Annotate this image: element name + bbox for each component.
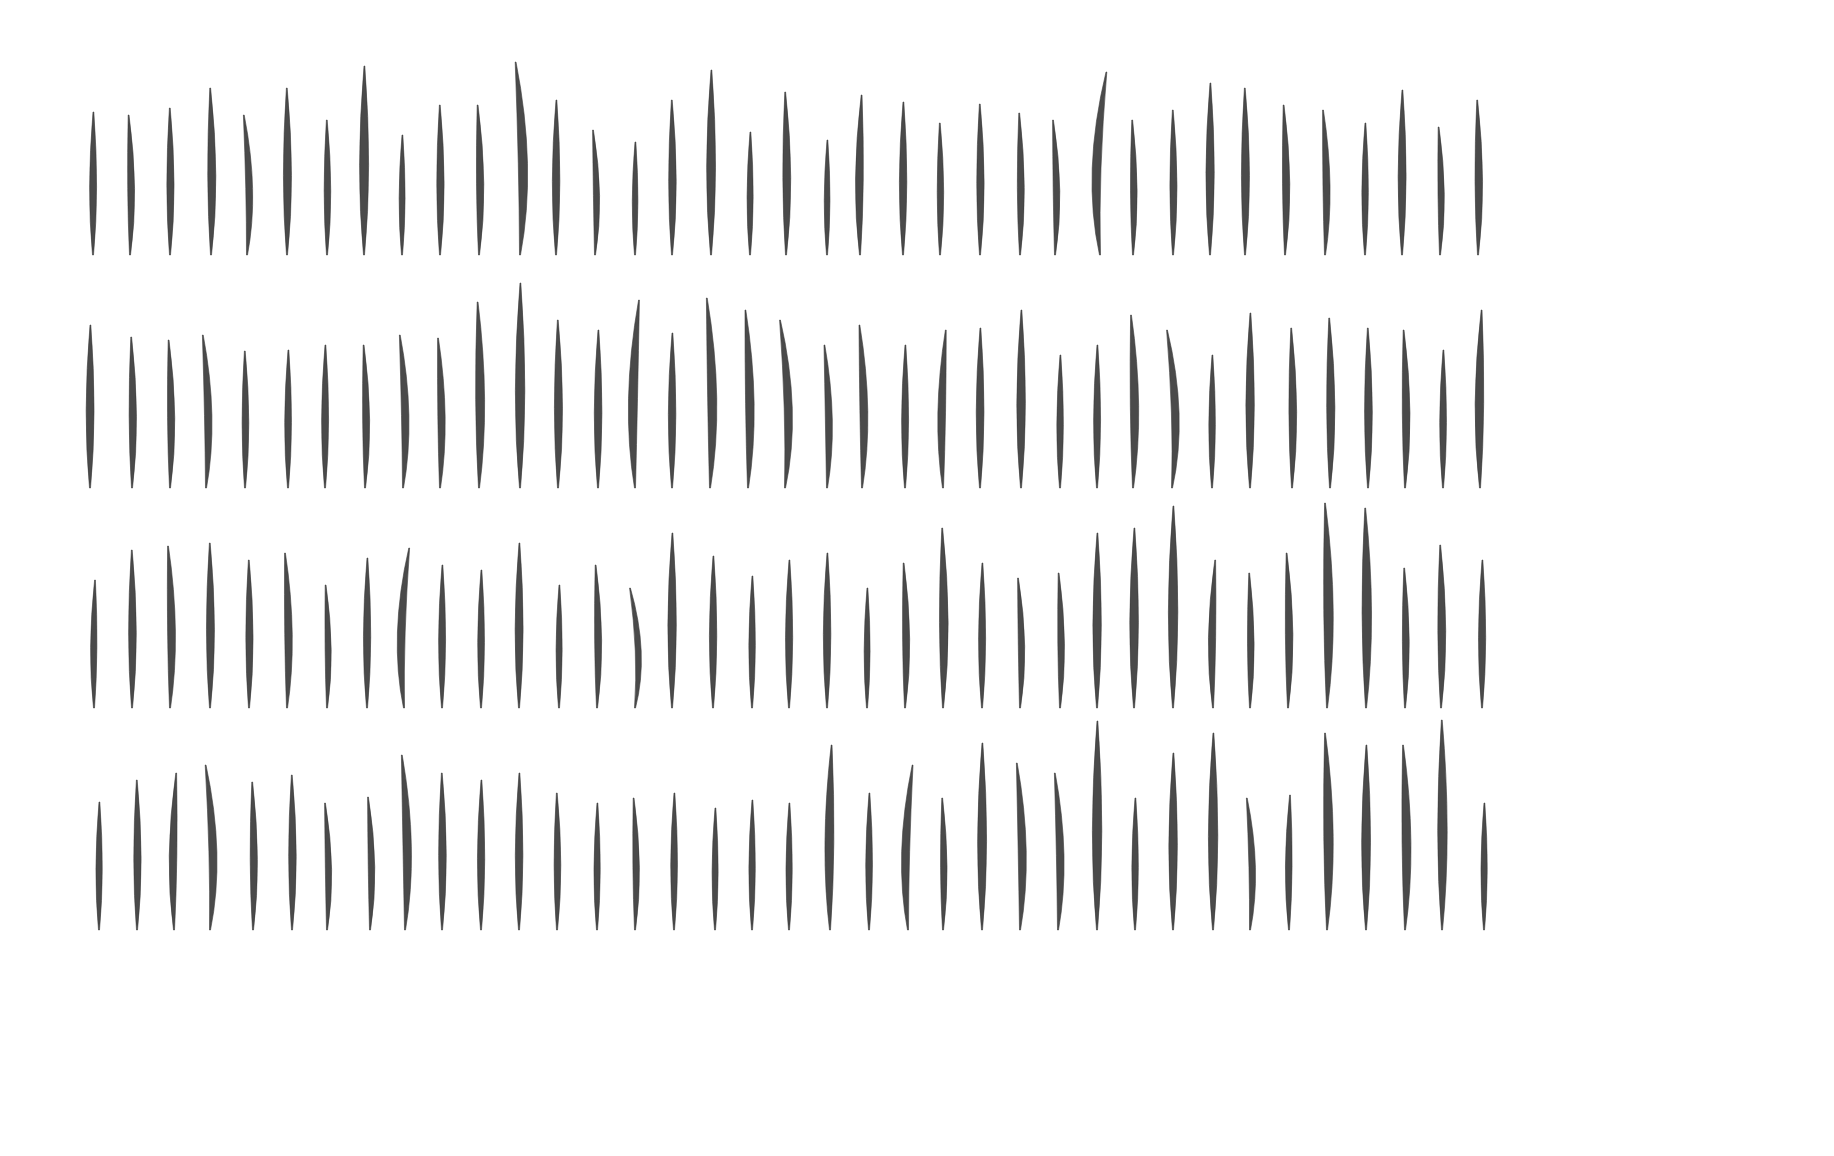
leaf <box>242 351 249 488</box>
leaf <box>167 340 174 488</box>
leaf <box>939 528 948 708</box>
leaf <box>399 335 409 488</box>
leaf <box>823 553 831 708</box>
leaf <box>360 66 369 255</box>
leaf <box>515 773 523 930</box>
leaf <box>671 793 678 930</box>
leaf <box>706 298 716 488</box>
leaf <box>1438 720 1447 930</box>
leaf <box>1475 310 1484 488</box>
leaf <box>712 808 718 930</box>
leaf <box>1017 310 1026 488</box>
leaf <box>1324 503 1334 708</box>
leaf <box>167 546 175 708</box>
leaf <box>1130 315 1139 488</box>
leaf <box>206 543 214 708</box>
leaf <box>632 142 638 255</box>
leaf <box>1169 753 1178 930</box>
leaf <box>1208 733 1217 930</box>
leaf <box>1246 798 1255 930</box>
leaf <box>1282 105 1289 255</box>
leaf <box>630 588 642 708</box>
leaf <box>1362 123 1368 255</box>
leaf <box>1246 313 1254 488</box>
leaf <box>749 576 755 708</box>
leaf <box>594 330 602 488</box>
leaf <box>628 300 639 488</box>
leaf <box>937 123 943 255</box>
leaf <box>1132 798 1138 930</box>
leaf <box>1402 330 1410 488</box>
leaf <box>437 105 444 255</box>
leaf <box>1017 113 1024 255</box>
leaf-rows <box>86 62 1487 930</box>
leaf-row-2 <box>86 283 1484 488</box>
leaf <box>1289 328 1297 488</box>
leaf <box>476 105 483 255</box>
leaf <box>859 325 868 488</box>
leaf <box>1398 90 1406 255</box>
leaf <box>552 100 560 255</box>
leaf <box>1365 328 1373 488</box>
leaf <box>976 328 984 488</box>
leaf <box>1130 528 1139 708</box>
leaf <box>979 563 986 708</box>
leaf <box>438 338 446 488</box>
leaf <box>707 70 716 255</box>
leaf <box>368 797 375 930</box>
leaf <box>1481 803 1487 930</box>
leaf <box>824 345 832 488</box>
leaf <box>363 558 370 708</box>
leaf <box>202 335 212 488</box>
leaf <box>668 533 676 708</box>
leaf <box>1209 355 1216 488</box>
leaf <box>978 743 987 930</box>
leaf <box>866 793 873 930</box>
leaf <box>439 565 446 708</box>
leaf <box>169 773 177 930</box>
leaf <box>1438 545 1446 708</box>
leaf <box>1016 763 1026 930</box>
leaf <box>749 800 755 930</box>
leaf <box>397 548 409 708</box>
leaf <box>899 102 906 255</box>
leaf <box>86 325 94 488</box>
leaf <box>864 588 870 708</box>
leaf <box>902 765 913 930</box>
leaf <box>325 585 331 708</box>
leaf <box>554 320 562 488</box>
leaf <box>856 95 864 255</box>
leaf <box>129 550 137 708</box>
leaf <box>324 120 331 255</box>
leaf <box>1092 721 1101 930</box>
leaf-specimen-image <box>0 0 1834 1156</box>
leaf <box>1094 345 1101 488</box>
leaf <box>285 350 292 488</box>
leaf <box>938 330 946 488</box>
leaf <box>1092 72 1107 255</box>
leaf <box>1285 553 1293 708</box>
leaf <box>91 580 97 708</box>
leaf <box>556 585 562 708</box>
leaf <box>1057 355 1064 488</box>
leaf <box>783 92 791 255</box>
leaf <box>1402 568 1409 708</box>
leaf <box>1170 110 1177 255</box>
leaf <box>709 556 716 708</box>
leaf <box>1323 110 1330 255</box>
leaf-row-3 <box>91 503 1486 708</box>
leaf-row-4 <box>96 720 1487 930</box>
leaf <box>128 115 135 255</box>
leaf <box>1327 318 1335 488</box>
leaf <box>284 553 292 708</box>
leaf <box>478 570 485 708</box>
leaf-row-1 <box>90 62 1483 255</box>
leaf <box>322 345 329 488</box>
leaf <box>977 104 984 255</box>
leaf <box>439 773 447 930</box>
leaf <box>786 560 793 708</box>
leaf <box>903 563 910 708</box>
leaf <box>205 765 217 930</box>
leaf <box>1402 745 1411 930</box>
leaf <box>633 798 640 930</box>
